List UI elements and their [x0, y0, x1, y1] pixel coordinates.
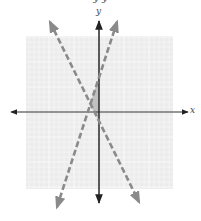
y-axis-label: y — [96, 6, 101, 16]
coordinate-plane — [0, 0, 201, 221]
x-axis-label: x — [190, 105, 195, 115]
